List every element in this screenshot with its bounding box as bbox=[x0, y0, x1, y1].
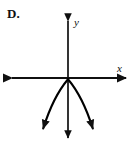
parabola-left-branch bbox=[43, 79, 68, 128]
parabola-right-branch bbox=[68, 79, 93, 128]
x-axis-label: x bbox=[116, 62, 122, 74]
coordinate-graph: y x bbox=[0, 0, 136, 150]
answer-choice-figure: D. y x bbox=[0, 0, 136, 150]
y-axis-label: y bbox=[73, 16, 79, 28]
